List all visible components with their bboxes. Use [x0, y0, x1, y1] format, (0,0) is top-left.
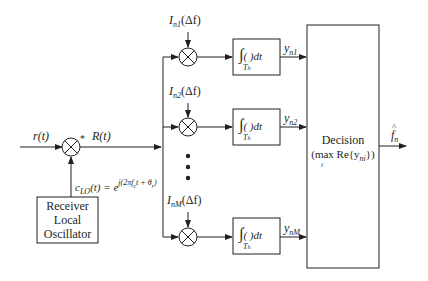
branch-m-mixer — [179, 228, 197, 246]
branch-2-integrator-label: ∫( )dt Th — [239, 116, 262, 134]
decision-expression: (max Re{yni}) i — [307, 147, 379, 166]
branch-1-mixer — [179, 48, 197, 66]
branch-1-integrator-label: ∫( )dt Th — [239, 46, 262, 64]
branch-2-reference-label: In2(Δf) — [169, 85, 201, 100]
branch-1-output-label: yn1 — [284, 42, 297, 57]
ellipsis-dots — [186, 154, 190, 180]
decision-block-label: Decision (max Re{yni}) i — [307, 133, 379, 166]
lo-signal-label: cLO(t) = ej(2πfct + θr) — [75, 179, 157, 196]
branch-m-integrator-label: ∫( )dt Th — [239, 225, 262, 243]
branch-1-reference-label: In1(Δf) — [169, 14, 201, 29]
branch-2-mixer — [179, 118, 197, 136]
branch-2-output-label: yn2 — [284, 112, 297, 127]
lo-block-label: Receiver Local Oscillator — [37, 199, 98, 241]
branch-m-output-label: ynM — [284, 222, 300, 237]
conjugate-mark: * — [80, 134, 85, 144]
branch-m-reference-label: InM(Δf) — [167, 194, 201, 209]
input-signal-label: r(t) — [33, 130, 49, 142]
main-mixer — [62, 138, 80, 156]
output-signal-label: ^fn — [391, 129, 398, 144]
mixed-signal-label: R(t) — [92, 130, 111, 142]
